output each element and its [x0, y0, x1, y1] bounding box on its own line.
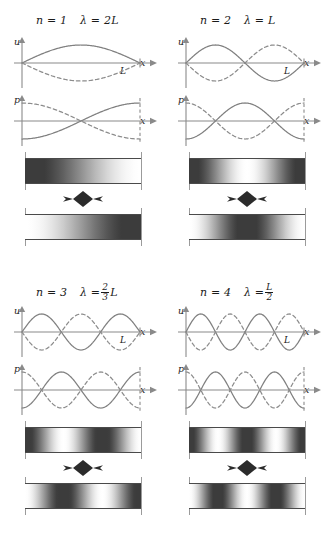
- mode-lambda-fraction-3: 23: [100, 283, 110, 302]
- mode-lambda-value-3: L: [110, 286, 118, 299]
- mode-lambda-prefix-2: λ =: [235, 14, 264, 27]
- density-bars-1: [22, 152, 144, 260]
- compression-arrow-icon-2: [224, 190, 270, 208]
- tube-wall-right-top-1: [141, 152, 142, 190]
- density-bars-2: [186, 152, 308, 260]
- density-bar-phase0-4: [189, 427, 305, 453]
- displacement-plot-4: [176, 305, 322, 359]
- mode-lambda-value-2: L: [268, 14, 276, 27]
- mode-panel-2: n = 2 λ = L u p x x L: [164, 0, 327, 268]
- density-bar-phase1-4: [189, 483, 305, 509]
- tube-wall-right-bottom-2: [305, 208, 306, 246]
- displacement-plot-3: [12, 305, 158, 359]
- pressure-plot-1: [12, 94, 158, 148]
- tube-wall-right-bottom-4: [305, 477, 306, 515]
- mode-title-3: n = 3 λ =23L: [36, 283, 118, 302]
- mode-lambda-denominator-4: 2: [265, 293, 273, 302]
- density-bar-phase0-2: [189, 158, 305, 184]
- mode-panel-4: n = 4 λ =L2 u p x x L: [164, 269, 327, 537]
- mode-n-label-4: n = 4: [200, 286, 231, 299]
- displacement-plot-1: [12, 36, 158, 90]
- compression-arrow-icon-3: [60, 459, 106, 477]
- mode-title-2: n = 2 λ = L: [200, 14, 276, 27]
- figure-root: n = 1 λ = 2L u p x x L n = 2 λ = L u p x: [0, 0, 327, 537]
- tube-wall-right-bottom-1: [141, 208, 142, 246]
- tube-wall-right-bottom-3: [141, 477, 142, 515]
- density-bar-phase1-1: [25, 214, 141, 240]
- mode-panel-1: n = 1 λ = 2L u p x x L: [0, 0, 163, 268]
- density-bar-phase1-3: [25, 483, 141, 509]
- density-bars-3: [22, 421, 144, 529]
- mode-n-label-3: n = 3: [36, 286, 67, 299]
- mode-lambda-prefix-1: λ =: [71, 14, 100, 27]
- pressure-plot-4: [176, 363, 322, 417]
- mode-title-1: n = 1 λ = 2L: [36, 14, 119, 27]
- tube-wall-right-top-3: [141, 421, 142, 459]
- mode-lambda-prefix-4: λ =: [235, 286, 264, 299]
- mode-lambda-denominator-3: 3: [101, 293, 109, 302]
- pressure-plot-3: [12, 363, 158, 417]
- mode-lambda-prefix-3: λ =: [71, 286, 100, 299]
- mode-lambda-value-1: 2L: [104, 14, 119, 27]
- mode-title-4: n = 4 λ =L2: [200, 283, 274, 302]
- tube-wall-right-top-2: [305, 152, 306, 190]
- displacement-plot-2: [176, 36, 322, 90]
- density-bar-phase1-2: [189, 214, 305, 240]
- mode-n-label-2: n = 2: [200, 14, 231, 27]
- density-bars-4: [186, 421, 308, 529]
- mode-n-label-1: n = 1: [36, 14, 67, 27]
- density-bar-phase0-1: [25, 158, 141, 184]
- compression-arrow-icon-4: [224, 459, 270, 477]
- pressure-plot-2: [176, 94, 322, 148]
- compression-arrow-icon-1: [60, 190, 106, 208]
- density-bar-phase0-3: [25, 427, 141, 453]
- mode-panel-3: n = 3 λ =23L u p x x L: [0, 269, 163, 537]
- mode-lambda-fraction-4: L2: [264, 283, 274, 302]
- tube-wall-right-top-4: [305, 421, 306, 459]
